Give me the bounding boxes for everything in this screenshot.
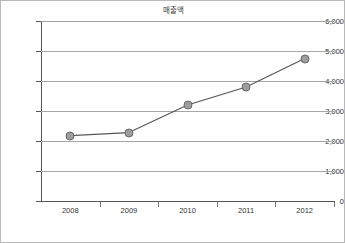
x-axis-tick-label: 2008 <box>47 206 93 215</box>
y-axis-tick <box>36 201 41 202</box>
chart-title: 매출액 <box>1 4 345 15</box>
data-point-marker <box>300 54 309 63</box>
x-axis-tick <box>158 202 159 207</box>
data-point-marker <box>242 83 251 92</box>
series-line <box>41 21 334 201</box>
plot-area <box>41 21 334 201</box>
x-axis-tick <box>217 202 218 207</box>
x-axis-tick <box>100 202 101 207</box>
x-axis-tick <box>275 202 276 207</box>
data-point-marker <box>124 128 133 137</box>
data-point-marker <box>66 131 75 140</box>
chart-container: 매출액 6,0005,0004,0003,0002,0001,0000 2008… <box>0 0 345 243</box>
data-point-marker <box>183 101 192 110</box>
x-axis-tick-label: 2012 <box>282 206 328 215</box>
x-axis-tick <box>334 202 335 207</box>
x-axis-tick-label: 2010 <box>165 206 211 215</box>
x-axis-tick-label: 2009 <box>106 206 152 215</box>
x-axis-line <box>41 201 335 202</box>
x-axis-tick-label: 2011 <box>223 206 269 215</box>
